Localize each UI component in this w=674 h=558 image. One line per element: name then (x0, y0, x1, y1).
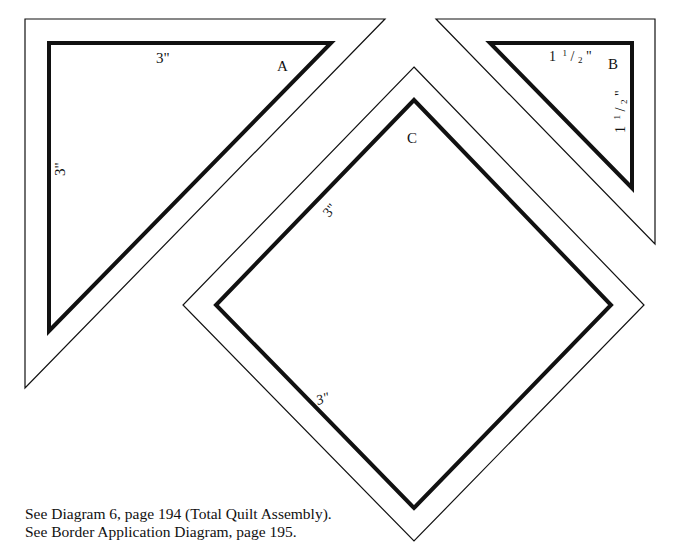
piece-b-top-dimension: 1 1 / 2 " (549, 44, 592, 66)
piece-b-right-dimension: 1 1 / 2 " (608, 90, 630, 133)
piece-a-left-dimension: 3" (52, 162, 68, 176)
piece-c-upper-left-dimension: 3" (320, 201, 340, 220)
reference-note-border-application: See Border Application Diagram, page 195… (25, 522, 297, 541)
piece-b-right-num: 1 (612, 115, 622, 120)
piece-b-right-whole: 1 (613, 126, 628, 133)
piece-a-label: A (277, 58, 288, 74)
piece-b-top-whole: 1 (549, 49, 556, 64)
piece-b-right-slash: / (613, 108, 628, 112)
piece-c-finished-outline (216, 100, 611, 508)
reference-note-total-quilt-assembly: See Diagram 6, page 194 (Total Quilt Ass… (25, 504, 332, 523)
piece-c-label: C (407, 130, 417, 146)
piece-b-top-den: 2 (578, 55, 583, 65)
piece-b-top-unit: " (586, 49, 592, 64)
piece-b-right-den: 2 (619, 100, 629, 105)
piece-c: C 3" 3" (183, 67, 644, 541)
piece-a-top-dimension: 3" (156, 50, 170, 66)
piece-b-label: B (608, 56, 618, 72)
quilt-template-diagram: A 3" 3" B 1 1 / 2 " 1 1 / 2 " C 3" 3" (0, 0, 674, 558)
piece-b-right-unit: " (613, 90, 628, 96)
piece-b-top-num: 1 (563, 48, 568, 58)
piece-b: B 1 1 / 2 " 1 1 / 2 " (436, 19, 655, 244)
piece-a-finished-outline (49, 43, 331, 331)
piece-b-top-slash: / (571, 49, 575, 64)
